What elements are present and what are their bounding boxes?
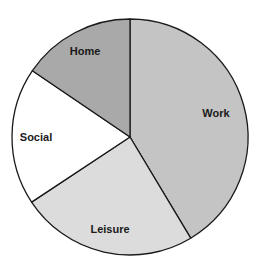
- slice-label-leisure: Leisure: [90, 223, 129, 235]
- pie-chart: Work Leisure Social Home: [0, 0, 259, 275]
- slice-label-home: Home: [70, 45, 101, 57]
- slice-label-social: Social: [20, 131, 52, 143]
- slice-label-work: Work: [202, 107, 230, 119]
